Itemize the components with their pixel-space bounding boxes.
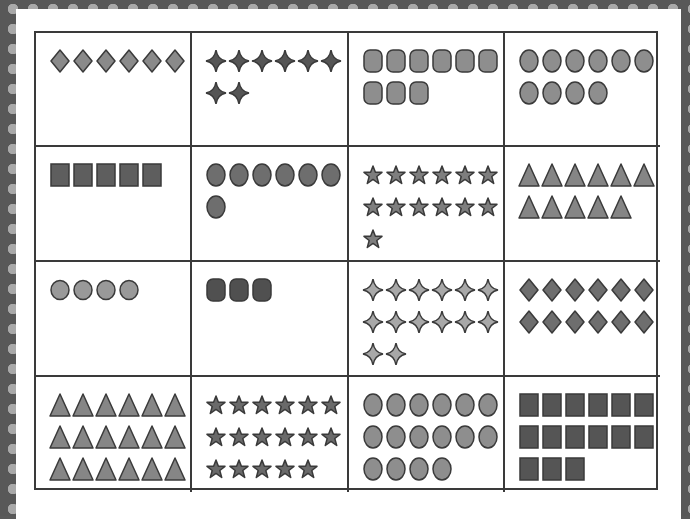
counting-card-r1-c3 <box>349 33 505 147</box>
rounded-square-icon <box>453 45 476 77</box>
star-icon <box>361 223 384 255</box>
sparkle-icon <box>476 274 499 306</box>
star-icon <box>204 421 227 453</box>
triangle-icon <box>71 453 94 485</box>
circle-icon <box>71 274 94 306</box>
star-icon <box>453 191 476 223</box>
star-icon <box>273 389 296 421</box>
triangle-icon <box>586 159 609 191</box>
diamond-icon <box>632 274 655 306</box>
triangle-icon <box>140 389 163 421</box>
oval-icon <box>407 389 430 421</box>
rounded-square-icon <box>476 45 499 77</box>
sparkle-icon <box>453 274 476 306</box>
oval-icon <box>407 453 430 485</box>
counting-card-r2-c3 <box>349 147 505 262</box>
star-icon <box>361 191 384 223</box>
counting-card-r1-c4 <box>505 33 660 147</box>
star-icon <box>296 389 319 421</box>
oval-icon <box>453 389 476 421</box>
star-icon <box>384 159 407 191</box>
oval-icon <box>430 453 453 485</box>
diamond-icon <box>609 306 632 338</box>
sparkle-icon <box>430 274 453 306</box>
sparkle-icon <box>227 45 250 77</box>
square-icon <box>586 421 609 453</box>
diamond-icon <box>94 45 117 77</box>
star-icon <box>476 191 499 223</box>
counting-card-r2-c4 <box>505 147 660 262</box>
oval-icon <box>430 389 453 421</box>
rounded-square-icon <box>407 77 430 109</box>
triangle-icon <box>163 453 186 485</box>
counting-card-r3-c3 <box>349 262 505 377</box>
triangle-icon <box>163 421 186 453</box>
diamond-icon <box>48 45 71 77</box>
oval-icon <box>517 77 540 109</box>
sparkle-icon <box>476 306 499 338</box>
sparkle-icon <box>384 274 407 306</box>
oval-icon <box>273 159 296 191</box>
oval-icon <box>632 45 655 77</box>
shape-group <box>204 274 344 306</box>
star-icon <box>273 421 296 453</box>
sparkle-icon <box>361 306 384 338</box>
diamond-icon <box>586 274 609 306</box>
rounded-square-icon <box>250 274 273 306</box>
square-icon <box>517 421 540 453</box>
oval-icon <box>476 389 499 421</box>
star-icon <box>204 389 227 421</box>
square-icon <box>609 421 632 453</box>
sparkle-icon <box>407 274 430 306</box>
oval-icon <box>319 159 342 191</box>
star-icon <box>250 389 273 421</box>
square-icon <box>540 421 563 453</box>
diamond-icon <box>517 306 540 338</box>
square-icon <box>586 389 609 421</box>
counting-card-r3-c2 <box>192 262 349 377</box>
triangle-icon <box>540 191 563 223</box>
triangle-icon <box>140 453 163 485</box>
oval-icon <box>204 159 227 191</box>
star-icon <box>319 389 342 421</box>
sparkle-icon <box>453 306 476 338</box>
square-icon <box>48 159 71 191</box>
shape-group <box>361 274 501 370</box>
shape-group <box>361 45 501 109</box>
square-icon <box>517 453 540 485</box>
diamond-icon <box>517 274 540 306</box>
square-icon <box>94 159 117 191</box>
star-icon <box>319 421 342 453</box>
diamond-icon <box>632 306 655 338</box>
triangle-icon <box>540 159 563 191</box>
oval-icon <box>563 77 586 109</box>
star-icon <box>296 421 319 453</box>
counting-card-r1-c2 <box>192 33 349 147</box>
triangle-icon <box>71 421 94 453</box>
diamond-icon <box>71 45 94 77</box>
star-icon <box>407 159 430 191</box>
star-icon <box>227 453 250 485</box>
shape-group <box>517 45 657 109</box>
oval-icon <box>453 421 476 453</box>
triangle-icon <box>94 421 117 453</box>
square-icon <box>563 389 586 421</box>
shape-group <box>361 389 501 485</box>
shape-group <box>48 45 188 77</box>
oval-icon <box>384 421 407 453</box>
square-icon <box>563 453 586 485</box>
star-icon <box>430 159 453 191</box>
square-icon <box>563 421 586 453</box>
triangle-icon <box>609 191 632 223</box>
square-icon <box>117 159 140 191</box>
shape-group <box>204 45 344 109</box>
triangle-icon <box>563 159 586 191</box>
triangle-icon <box>117 453 140 485</box>
triangle-icon <box>632 159 655 191</box>
star-icon <box>296 453 319 485</box>
star-icon <box>407 191 430 223</box>
sparkle-icon <box>361 274 384 306</box>
circle-icon <box>117 274 140 306</box>
star-icon <box>430 191 453 223</box>
circle-icon <box>48 274 71 306</box>
